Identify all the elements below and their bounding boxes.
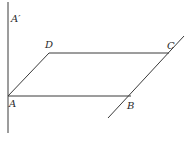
label-a-prime: A′ (10, 13, 21, 24)
label-b: B (126, 100, 134, 111)
parallelogram-diagram: A′ D C A B (0, 0, 187, 143)
label-a: A (8, 98, 16, 109)
label-c: C (167, 40, 175, 51)
segment-ad (8, 53, 49, 96)
label-d: D (44, 39, 53, 50)
